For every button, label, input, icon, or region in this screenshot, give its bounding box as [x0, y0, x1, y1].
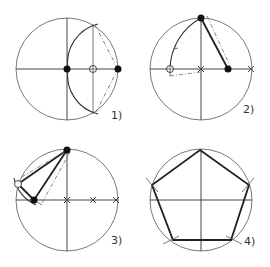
midpoint — [225, 66, 232, 73]
vertex-marker — [15, 181, 22, 188]
construction-line-lower — [96, 69, 118, 112]
pentagon-construction-diagram: 1) 2) 3) — [0, 0, 270, 267]
construction-line-upper — [95, 25, 118, 69]
step-4-panel: 4) — [146, 149, 255, 251]
step-3-panel: 3) — [14, 147, 122, 252]
step-2-label: 2) — [243, 103, 254, 116]
golden-point — [31, 197, 38, 204]
step-2-panel: 2) — [150, 15, 254, 121]
center-point — [64, 66, 71, 73]
construction-line — [207, 16, 230, 66]
construction-line-lower — [170, 72, 201, 76]
top-point — [64, 147, 71, 154]
step-1-panel: 1) — [16, 18, 122, 122]
construction-line-2 — [42, 152, 70, 203]
step-1-label: 1) — [111, 109, 122, 122]
hypotenuse-line — [201, 18, 228, 69]
step-3-label: 3) — [111, 234, 122, 247]
arc-arrow-icon — [174, 45, 178, 49]
step-4-label: 4) — [244, 235, 255, 248]
radius-endpoint — [115, 66, 122, 73]
top-point — [198, 15, 205, 22]
